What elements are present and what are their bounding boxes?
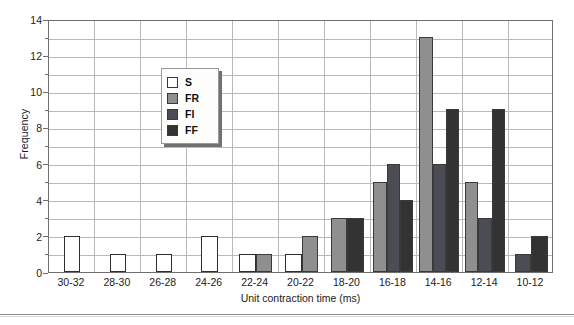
chart-legend: SFRFIFF <box>161 68 219 144</box>
y-axis-tick-labels: 02468101214 <box>16 0 42 325</box>
y-axis-tick-label: 12 <box>20 51 42 61</box>
bar <box>373 182 386 272</box>
y-axis-tick-label: 10 <box>20 87 42 97</box>
legend-label: FF <box>185 125 198 136</box>
bar <box>531 236 548 272</box>
legend-label: FR <box>185 93 199 104</box>
bar <box>302 236 319 272</box>
y-axis-tick-major <box>43 128 48 129</box>
x-axis-tick-label: 18-20 <box>323 276 369 289</box>
bar <box>256 254 273 272</box>
legend-label: S <box>185 77 192 88</box>
x-axis-tick-labels: 30-3228-3026-2824-2622-2420-2218-2016-18… <box>48 276 553 292</box>
bar <box>515 254 532 272</box>
x-axis-tick-label: 16-18 <box>369 276 415 289</box>
y-axis-tick-label: 0 <box>20 268 42 278</box>
y-axis-tick-major <box>43 92 48 93</box>
legend-item: FR <box>167 90 212 106</box>
bar <box>400 200 413 272</box>
y-axis-tick-major <box>43 273 48 274</box>
bar <box>64 236 81 272</box>
y-axis-tick-minor <box>45 110 48 111</box>
y-axis-tick-label: 4 <box>20 196 42 206</box>
x-axis-tick-label: 26-28 <box>140 276 186 289</box>
x-axis-tick-label: 24-26 <box>186 276 232 289</box>
y-axis-tick-minor <box>45 146 48 147</box>
bar <box>110 254 127 272</box>
bar <box>331 218 348 272</box>
x-axis-title: Unit contraction time (ms) <box>48 292 553 304</box>
legend-item: FF <box>167 122 212 138</box>
y-axis-tick-minor <box>45 254 48 255</box>
bar-group-container <box>49 21 552 272</box>
bar <box>446 109 459 272</box>
y-axis-tick-label: 8 <box>20 123 42 133</box>
bar <box>387 164 400 272</box>
y-axis-tick-minor <box>45 218 48 219</box>
y-axis-tick-minor <box>45 38 48 39</box>
y-axis-tick-major <box>43 236 48 237</box>
legend-swatch <box>167 109 178 120</box>
x-axis-tick-label: 30-32 <box>48 276 94 289</box>
bar <box>465 182 478 272</box>
bar <box>419 37 432 272</box>
bar <box>239 254 256 272</box>
y-axis-tick-major <box>43 164 48 165</box>
x-axis-tick-label: 12-14 <box>461 276 507 289</box>
y-axis-tick-major <box>43 56 48 57</box>
legend-swatch <box>167 125 178 136</box>
y-axis-tick-minor <box>45 74 48 75</box>
bar <box>347 218 364 272</box>
legend-swatch <box>167 93 178 104</box>
legend-swatch <box>167 77 178 88</box>
y-axis-tick-label: 2 <box>20 232 42 242</box>
bar <box>201 236 218 272</box>
y-axis-tick-minor <box>45 182 48 183</box>
bar <box>478 218 491 272</box>
x-axis-tick-label: 28-30 <box>94 276 140 289</box>
footer-divider-secondary <box>0 316 574 317</box>
y-axis-tick-label: 14 <box>20 15 42 25</box>
x-axis-tick-label: 20-22 <box>278 276 324 289</box>
plot-area <box>48 20 553 273</box>
footer-divider <box>0 314 574 315</box>
legend-label: FI <box>185 109 194 120</box>
bar <box>285 254 302 272</box>
y-axis-tick-label: 6 <box>20 160 42 170</box>
bar <box>156 254 173 272</box>
y-axis-tick-major <box>43 200 48 201</box>
x-axis-tick-label: 22-24 <box>232 276 278 289</box>
x-axis-tick-label: 10-12 <box>507 276 553 289</box>
legend-item: FI <box>167 106 212 122</box>
bar-chart-figure: Frequency 02468101214 30-3228-3026-2824-… <box>0 0 574 325</box>
legend-item: S <box>167 74 212 90</box>
bar <box>433 164 446 272</box>
y-axis-tick-major <box>43 20 48 21</box>
x-axis-tick-label: 14-16 <box>415 276 461 289</box>
bar <box>492 109 505 272</box>
